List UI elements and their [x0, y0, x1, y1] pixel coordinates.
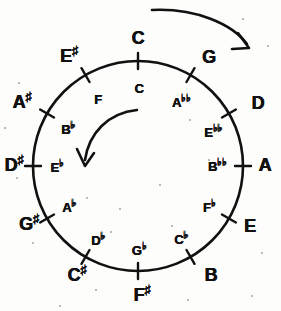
tick-mark-G	[187, 68, 195, 82]
scan-speck	[59, 305, 61, 307]
inner-note-label-Cflat: C♭	[174, 230, 188, 245]
inner-note-label-Eflatflat: E♭♭	[204, 123, 221, 138]
scan-speck	[32, 242, 34, 244]
circle-of-fifths-figure: CCGA♭♭DE♭♭AB♭♭EF♭BC♭F♯G♭C♯D♭G♯A♭D♯E♭A♯B♭…	[0, 0, 281, 311]
tick-mark-Gsharp	[40, 215, 54, 223]
outer-note-label-Csharp: C♯	[68, 264, 87, 284]
scan-speck	[251, 295, 253, 297]
tick-mark-E	[222, 215, 236, 223]
outer-note-label-Dsharp: D♯	[5, 154, 24, 174]
scan-speck	[189, 119, 191, 121]
tick-mark-D	[222, 110, 236, 118]
scan-speck	[4, 127, 6, 129]
scan-speck	[110, 231, 112, 233]
inner-note-label-Bflatflat: B♭♭	[208, 157, 226, 172]
inner-note-label-Fflat: F♭	[203, 198, 215, 213]
inner-note-label-C: C	[134, 82, 143, 95]
inner-arrow-icon	[77, 110, 137, 166]
outer-note-label-E: E	[244, 217, 256, 235]
scan-speck	[187, 299, 189, 301]
outer-note-label-B: B	[205, 266, 218, 284]
inner-note-label-Aflat: A♭	[62, 198, 76, 213]
inner-note-label-Bflat: B♭	[61, 120, 75, 135]
outer-note-label-Gsharp: G♯	[19, 213, 39, 233]
outer-arrow-icon	[152, 10, 249, 49]
scan-speck	[119, 208, 121, 210]
outer-note-label-G: G	[202, 48, 216, 66]
outer-note-label-Asharp: A♯	[13, 91, 32, 111]
outer-note-label-D: D	[252, 94, 265, 112]
outer-note-label-Fsharp: F♯	[134, 284, 151, 304]
tick-mark-Esharp	[82, 68, 90, 82]
inner-note-label-Gflat: G♭	[132, 241, 146, 256]
inner-note-label-Eflat: E♭	[51, 158, 64, 173]
outer-note-label-A: A	[259, 156, 272, 174]
inner-note-label-F: F	[94, 93, 102, 106]
tick-mark-B	[187, 250, 195, 264]
outer-note-label-C: C	[132, 29, 145, 47]
outer-note-label-Esharp: E♯	[60, 45, 78, 65]
scan-speck	[159, 184, 161, 186]
tick-mark-Asharp	[40, 110, 54, 118]
inner-note-label-Dflat: D♭	[91, 231, 105, 246]
inner-note-label-Aflatflat: A♭♭	[172, 93, 190, 108]
scan-speck	[208, 159, 210, 161]
